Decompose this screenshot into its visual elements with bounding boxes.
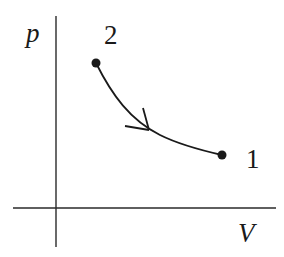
state-label-2: 2	[104, 20, 118, 50]
pv-diagram: p V 2 1	[0, 0, 284, 257]
v-axis-label: V	[238, 218, 258, 248]
state-label-1: 1	[246, 144, 260, 174]
state-point-2	[92, 59, 101, 68]
process-curve	[96, 63, 222, 155]
state-point-1	[218, 151, 227, 160]
p-axis-label: p	[24, 18, 40, 48]
